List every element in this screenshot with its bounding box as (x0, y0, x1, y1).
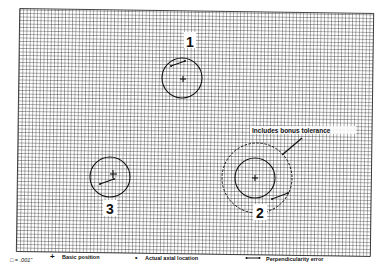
plus-icon: + (50, 252, 55, 261)
legend-scale: □ = .001" (10, 257, 32, 263)
feature-1-label: 1 (186, 34, 194, 50)
perpendicularity-error-arrow-icon (245, 255, 261, 262)
dot-icon: • (135, 254, 137, 261)
feature-2-label: 2 (256, 205, 264, 221)
legend: □ = .001" + Basic position • Actual axia… (0, 254, 377, 270)
annotation-text: Includes bonus tolerance (252, 127, 331, 134)
legend-perpendicularity-error: Perpendicularity error (266, 256, 323, 262)
tolerance-diagram: 1 3 (0, 0, 377, 275)
legend-actual-axial-location: Actual axial location (145, 255, 198, 261)
legend-basic-position: Basic position (62, 254, 100, 260)
feature-3-label: 3 (106, 201, 114, 217)
